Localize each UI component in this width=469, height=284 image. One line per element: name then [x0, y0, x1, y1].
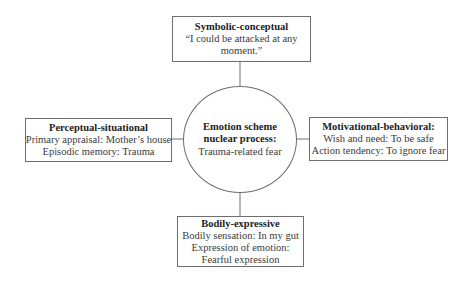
emotion-scheme-diagram: Symbolic-conceptual “I could be attacked…: [0, 0, 469, 284]
symbolic-conceptual-box: Symbolic-conceptual “I could be attacked…: [172, 16, 311, 62]
perceptual-situational-line-2: Episodic memory: Trauma: [43, 146, 155, 158]
motivational-behavioral-line-1: Wish and need: To be safe: [323, 133, 433, 145]
perceptual-situational-line-1: Primary appraisal: Mother’s house: [26, 134, 171, 146]
bodily-expressive-box: Bodily-expressive Bodily sensation: In m…: [177, 216, 304, 267]
symbolic-conceptual-title: Symbolic-conceptual: [195, 21, 288, 33]
motivational-behavioral-box: Motivational-behavioral: Wish and need: …: [309, 117, 448, 161]
motivational-behavioral-title: Motivational-behavioral:: [322, 121, 435, 133]
nucleus-body-line-1: Trauma-related fear: [198, 146, 281, 159]
symbolic-conceptual-line-1: “I could be attacked at any: [185, 33, 297, 45]
bodily-expressive-title: Bodily-expressive: [201, 218, 280, 230]
bodily-expressive-line-3: Fearful expression: [202, 254, 280, 266]
nucleus-title-line-2: nuclear process:: [204, 133, 277, 146]
bodily-expressive-line-2: Expression of emotion:: [192, 242, 290, 254]
perceptual-situational-box: Perceptual-situational Primary appraisal…: [25, 118, 172, 162]
symbolic-conceptual-line-2: moment.”: [221, 45, 263, 57]
bodily-expressive-line-1: Bodily sensation: In my gut: [182, 230, 299, 242]
emotion-scheme-nucleus: Emotion scheme nuclear process: Trauma-r…: [183, 86, 297, 193]
motivational-behavioral-line-2: Action tendency: To ignore fear: [312, 145, 446, 157]
nucleus-title-line-1: Emotion scheme: [203, 121, 277, 134]
perceptual-situational-title: Perceptual-situational: [49, 122, 148, 134]
